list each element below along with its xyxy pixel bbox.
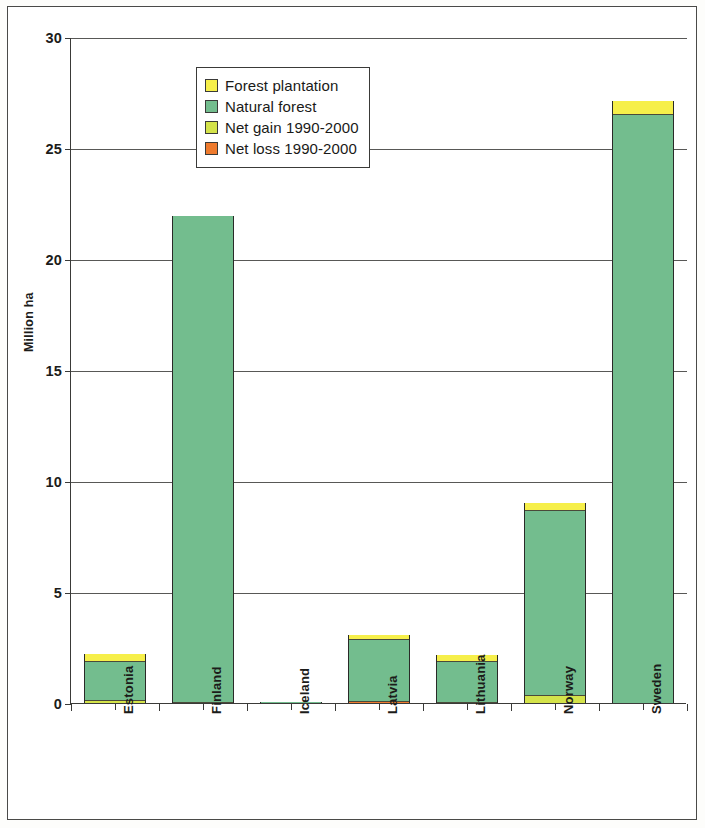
stacked-bar[interactable] <box>172 216 234 703</box>
x-axis-tick <box>335 704 336 711</box>
legend-item-label: Net loss 1990-2000 <box>225 140 357 157</box>
x-axis-tick <box>159 704 160 711</box>
bar-segment[interactable] <box>525 511 585 695</box>
bar-segment[interactable] <box>525 503 585 511</box>
bar-segment[interactable] <box>85 662 145 700</box>
legend-swatch-icon <box>205 121 218 134</box>
y-axis-tick-label: 20 <box>45 252 62 268</box>
x-axis-tick <box>555 703 556 710</box>
stacked-bar-chart: Million ha 051015202530 EstoniaFinlandIc… <box>0 0 705 828</box>
stacked-bar[interactable] <box>436 655 498 703</box>
bar-segment[interactable] <box>349 635 409 639</box>
x-axis-label-sweden: Sweden <box>649 664 664 714</box>
page-frame: Million ha 051015202530 EstoniaFinlandIc… <box>0 0 705 828</box>
bar-segment[interactable] <box>349 640 409 701</box>
x-axis-tick <box>423 704 424 711</box>
x-axis-label-latvia: Latvia <box>385 675 400 714</box>
legend-swatch-icon <box>205 142 218 155</box>
y-axis-title: Million ha <box>22 292 36 352</box>
y-axis-tick-label: 30 <box>45 30 62 46</box>
legend-item-label: Net gain 1990-2000 <box>225 119 359 136</box>
legend-swatch-icon <box>205 79 218 92</box>
bar-segment[interactable] <box>437 655 497 662</box>
bar-segment[interactable] <box>173 216 233 702</box>
bar-segment[interactable] <box>437 662 497 702</box>
stacked-bar[interactable] <box>84 654 146 703</box>
bar-group[interactable] <box>524 38 586 703</box>
legend-swatch-icon <box>205 100 218 113</box>
x-axis-tick <box>115 703 116 710</box>
legend-item-label: Natural forest <box>225 98 316 115</box>
bar-segment[interactable] <box>525 695 585 703</box>
y-axis-tick-label: 5 <box>54 585 62 601</box>
y-axis-tick-label: 0 <box>54 696 62 712</box>
x-axis-tick <box>511 704 512 711</box>
x-axis-tick <box>291 703 292 710</box>
stacked-bar[interactable] <box>348 635 410 703</box>
x-axis-tick <box>687 704 688 711</box>
bar-group[interactable] <box>612 38 674 703</box>
legend-item[interactable]: Natural forest <box>205 96 359 117</box>
bar-group[interactable] <box>436 38 498 703</box>
x-axis-label-estonia: Estonia <box>121 666 136 714</box>
legend-item[interactable]: Net gain 1990-2000 <box>205 117 359 138</box>
bar-segment[interactable] <box>85 654 145 662</box>
legend-item[interactable]: Net loss 1990-2000 <box>205 138 359 159</box>
x-axis-label-norway: Norway <box>561 666 576 714</box>
y-axis-tick-label: 10 <box>45 474 62 490</box>
bar-segment[interactable] <box>613 101 673 114</box>
x-axis-tick <box>599 704 600 711</box>
y-axis-tick <box>65 482 71 483</box>
x-axis-label-lithuania: Lithuania <box>473 654 488 714</box>
x-axis-tick <box>247 704 248 711</box>
x-axis-tick <box>203 703 204 710</box>
y-axis-tick <box>65 38 71 39</box>
stacked-bar[interactable] <box>524 503 586 703</box>
y-axis-tick-label: 15 <box>45 363 62 379</box>
x-axis-label-finland: Finland <box>209 666 224 714</box>
y-axis-tick-label: 25 <box>45 141 62 157</box>
x-axis-label-iceland: Iceland <box>297 668 312 714</box>
stacked-bar[interactable] <box>612 101 674 703</box>
x-axis-tick <box>71 704 72 711</box>
legend-item-label: Forest plantation <box>225 77 338 94</box>
y-axis-tick <box>65 149 71 150</box>
y-axis-tick <box>65 593 71 594</box>
x-axis-tick <box>643 703 644 710</box>
legend-item[interactable]: Forest plantation <box>205 75 359 96</box>
bar-group[interactable] <box>84 38 146 703</box>
x-axis-tick <box>467 703 468 710</box>
x-axis-tick <box>379 703 380 710</box>
chart-legend: Forest plantationNatural forestNet gain … <box>196 67 370 168</box>
plot-area: 051015202530 <box>70 38 686 704</box>
y-axis-tick <box>65 260 71 261</box>
bar-segment[interactable] <box>613 115 673 703</box>
y-axis-tick <box>65 371 71 372</box>
